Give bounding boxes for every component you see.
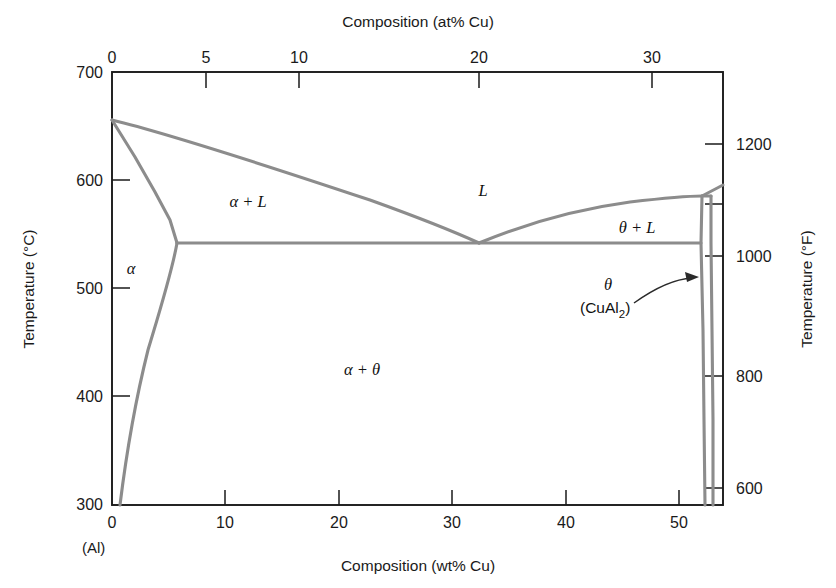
boundary-al-solidus (112, 120, 177, 243)
bottom-tick-label-0: 0 (108, 514, 117, 531)
bottom-tick-label-10: 10 (216, 514, 234, 531)
boundary-theta-right (711, 196, 713, 505)
phase-label-alpha: α (127, 259, 136, 278)
phase-diagram-figure: Composition (at% Cu) Composition (wt% Cu… (0, 0, 836, 588)
theta-formula-label: (CuAl2) (580, 299, 630, 320)
phase-label-theta: θ (604, 275, 612, 294)
phase-diagram-svg: Composition (at% Cu) Composition (wt% Cu… (0, 0, 836, 588)
theta-formula-post: ) (625, 299, 630, 316)
theta-formula-pre: (CuAl (580, 299, 619, 316)
left-tick-label-300: 300 (76, 496, 103, 513)
bottom-tick-label-40: 40 (557, 514, 575, 531)
left-tick-label-700: 700 (76, 64, 103, 81)
phase-label-alpha-plus-theta: α + θ (344, 360, 380, 379)
bottom-tick-label-20: 20 (330, 514, 348, 531)
top-tick-label-10: 10 (290, 49, 308, 66)
phase-label-theta-plus-liquid: θ + L (619, 218, 656, 237)
left-tick-label-600: 600 (76, 172, 103, 189)
left-tick-label-500: 500 (76, 280, 103, 297)
left-tick-marks (112, 180, 130, 396)
bottom-axis-title: Composition (wt% Cu) (341, 557, 495, 574)
left-tick-label-400: 400 (76, 388, 103, 405)
top-tick-label-30: 30 (643, 49, 661, 66)
bottom-tick-label-30: 30 (443, 514, 461, 531)
top-tick-marks (206, 72, 652, 88)
theta-annotation-arrowhead (685, 272, 699, 282)
left-corner-label: (Al) (82, 539, 105, 556)
phase-label-liquid: L (477, 181, 487, 200)
right-axis-title: Temperature (°F) (798, 230, 815, 347)
top-axis-title: Composition (at% Cu) (342, 13, 494, 30)
right-tick-label-1200: 1200 (736, 136, 772, 153)
bottom-tick-marks (225, 490, 679, 505)
top-tick-label-0: 0 (108, 49, 117, 66)
right-tick-label-600: 600 (736, 480, 763, 497)
top-tick-label-5: 5 (202, 49, 211, 66)
boundary-theta-liquidus-right (702, 185, 723, 196)
phase-label-alpha-plus-liquid: α + L (229, 192, 266, 211)
boundary-al-liquidus (112, 120, 479, 243)
boundary-alpha-solvus (120, 243, 177, 505)
right-tick-label-800: 800 (736, 368, 763, 385)
bottom-tick-label-50: 50 (670, 514, 688, 531)
boundary-theta-left (701, 196, 705, 505)
left-axis-title: Temperature (°C) (20, 229, 37, 348)
plot-frame (112, 72, 723, 505)
right-tick-label-1000: 1000 (736, 248, 772, 265)
top-tick-label-20: 20 (470, 49, 488, 66)
theta-annotation-arrow (634, 278, 692, 303)
svg-text:(CuAl2): (CuAl2) (580, 299, 630, 320)
boundary-theta-liquidus (479, 196, 702, 243)
